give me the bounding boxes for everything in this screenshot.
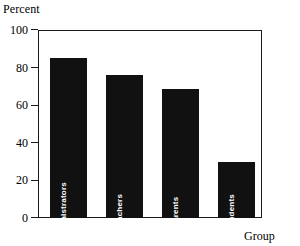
bar[interactable]: Administrators [50, 58, 87, 218]
y-tick-mark [31, 180, 38, 181]
bar-label: Students [227, 194, 236, 230]
y-tick-mark [31, 67, 38, 68]
y-tick-label: 40 [16, 137, 28, 149]
x-axis-title: Group [244, 229, 275, 243]
bar-chart: Percent 020406080100 AdministratorsTeach… [0, 0, 300, 246]
y-tick-label: 0 [22, 212, 28, 224]
bar[interactable]: Parents [162, 89, 199, 218]
bar[interactable]: Students [218, 162, 255, 218]
bar-label: Administrators [59, 182, 68, 242]
bar-label: Teachers [115, 194, 124, 230]
y-axis-title: Percent [3, 2, 40, 16]
y-tick-mark [31, 29, 38, 30]
y-tick-mark [31, 217, 38, 218]
bar-label: Parents [171, 197, 180, 228]
y-tick-label: 60 [16, 99, 28, 111]
bars-layer: AdministratorsTeachersParentsStudents [38, 30, 262, 218]
y-tick-label: 20 [16, 174, 28, 186]
bar[interactable]: Teachers [106, 75, 143, 218]
y-tick-mark [31, 105, 38, 106]
y-tick-mark [31, 142, 38, 143]
y-tick-label: 80 [16, 62, 28, 74]
y-tick-label: 100 [10, 24, 28, 36]
